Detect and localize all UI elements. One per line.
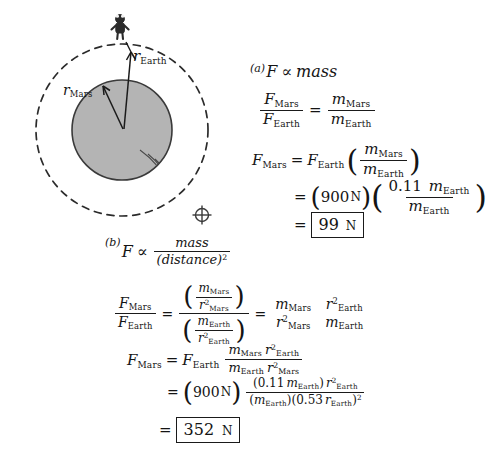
mass-over-r-squared-mars: mMars r2Mars	[272, 297, 314, 331]
compound-numerator: ( mMars r2Mars )	[180, 282, 247, 313]
force-unit: N	[350, 190, 361, 204]
equals-sign: =	[159, 421, 172, 439]
proportional-symbol: ∝	[281, 62, 292, 81]
part-a-ratio-equation: FMars FEarth = mMars mEarth	[258, 92, 377, 129]
force-ratio-fraction: FMars FEarth	[260, 92, 303, 129]
force-unit: N	[221, 385, 232, 399]
part-a-answer-value: 99	[319, 215, 339, 234]
force-value-group: ( 900 N )	[311, 182, 371, 212]
mass-radius-fraction: mMarsr2Earth mEarthr2Mars	[225, 343, 302, 377]
force-value: 900	[321, 188, 350, 206]
mass-ratio-fraction: mMars mEarth	[328, 92, 375, 129]
f-mars-symbol: FMars	[252, 151, 287, 170]
part-b-answer: = 352 N	[155, 417, 240, 443]
part-b-answer-unit: N	[222, 424, 233, 438]
equals-sign: =	[309, 101, 322, 119]
proportional-symbol: ∝	[137, 242, 148, 261]
part-b-boxed-answer: 352 N	[176, 417, 241, 443]
mass-ratio-fraction: 0.11 mEarth mEarth	[386, 179, 473, 216]
part-a-answer-unit: N	[346, 219, 357, 233]
equals-sign: =	[166, 351, 179, 369]
equals-sign: =	[167, 384, 179, 400]
mass-ratio-denominator: mEarth	[328, 110, 375, 129]
r-squared-earth-over-mass: r2Earth mEarth	[322, 297, 366, 331]
part-b-answer-value: 352	[184, 420, 215, 439]
mass-ratio-numerator: mMars	[329, 92, 374, 110]
person-position-tick	[126, 42, 131, 52]
stick-figure-person	[112, 15, 129, 39]
part-a-solve-equation: FMars = FEarth ( mMars mEarth )	[252, 142, 421, 179]
part-b-solve-equation: FMars = FEarth mMarsr2Earth mEarthr2Mars	[127, 343, 304, 377]
force-ratio-fraction: FMars FEarth	[115, 296, 156, 331]
numeric-numerator: (0.11mEarth)r2Earth	[250, 377, 361, 392]
mass-ratio-group: ( mMars mEarth )	[346, 142, 420, 179]
equals-sign: =	[294, 188, 307, 206]
part-b-label: (b)	[105, 236, 121, 249]
r-mars-label: rMars	[63, 82, 92, 99]
force-ratio-denominator: FEarth	[260, 110, 303, 129]
equals-sign: =	[294, 216, 307, 234]
numeric-denominator: (mEarth)(0.53rEarth)2	[246, 392, 364, 408]
equals-sign: =	[255, 306, 267, 322]
part-b-numeric-equation: = ( 900 N ) (0.11mEarth)r2Earth (mEarth)…	[163, 377, 366, 407]
f-earth-symbol: FEarth	[307, 151, 344, 170]
mass-ratio-value-group: ( 0.11 mEarth mEarth )	[371, 178, 487, 216]
part-a-numeric-equation: = ( 900 N ) ( 0.11 mEarth mEarth )	[290, 178, 487, 216]
part-a-answer: = 99 N	[290, 212, 364, 238]
mars-earth-radius-diagram: rEarth rMars	[0, 0, 236, 236]
equals-sign: =	[162, 306, 174, 322]
f-earth-symbol: FEarth	[182, 351, 219, 370]
part-a-label: (a)	[250, 62, 265, 75]
r-earth-label: rEarth	[133, 47, 167, 66]
earth-symbol-icon	[193, 206, 212, 225]
part-b-F: F	[122, 242, 133, 261]
part-b-ratio-equation: FMars FEarth = ( mMars r2Mars )	[113, 282, 368, 345]
mass-ratio-fraction: mMars mEarth	[360, 142, 407, 179]
compound-fraction: ( mMars r2Mars ) ( mEarth	[179, 282, 248, 345]
force-value: 900	[193, 384, 220, 400]
numeric-substitution-fraction: (0.11mEarth)r2Earth (mEarth)(0.53rEarth)…	[246, 377, 364, 407]
f-mars-symbol: FMars	[127, 351, 162, 370]
part-a-mass-word: mass	[296, 62, 337, 81]
compound-denominator: ( mEarth r2Earth )	[179, 313, 248, 345]
mass-over-distance-squared: mass (distance)2	[154, 236, 231, 266]
part-a-statement: (a) F ∝ mass	[250, 62, 337, 81]
part-b-statement: (b) F ∝ mass (distance)2	[105, 236, 232, 266]
force-value-group: ( 900 N )	[183, 377, 242, 407]
diagram-svg	[0, 0, 236, 236]
part-a-F: F	[266, 62, 277, 81]
equals-sign: =	[291, 151, 304, 169]
part-a-boxed-answer: 99 N	[311, 212, 365, 238]
force-ratio-numerator: FMars	[261, 92, 302, 110]
